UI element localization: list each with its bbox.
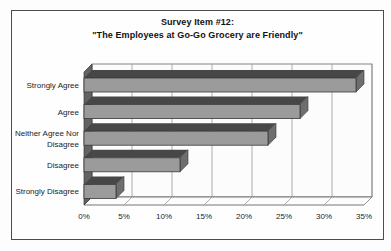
- bar-top-strongly-agree: [84, 70, 364, 78]
- category-label: Disagree: [47, 140, 80, 149]
- x-tick-label-35: 35%: [356, 212, 372, 221]
- x-tick-label-15: 15%: [196, 212, 212, 221]
- bar-top-neither-agree-nor-disagree: [84, 123, 276, 131]
- plot-floor: [84, 197, 372, 205]
- bar-disagree: [84, 158, 180, 172]
- bar-agree: [84, 105, 300, 119]
- x-tick-label-20: 20%: [236, 212, 252, 221]
- bar-top-disagree: [84, 150, 188, 158]
- x-tick-label-25: 25%: [276, 212, 292, 221]
- plot-area: Strongly AgreeAgreeNeither Agree NorDisa…: [0, 0, 391, 251]
- x-tick-label-10: 10%: [156, 212, 172, 221]
- bar-strongly-disagree: [84, 184, 116, 198]
- bar-strongly-agree: [84, 78, 356, 92]
- bar-top-agree: [84, 97, 308, 105]
- bar-neither-agree-nor-disagree: [84, 131, 268, 145]
- category-label: Neither Agree Nor: [15, 129, 79, 138]
- category-label: Disagree: [47, 161, 80, 170]
- x-tick-label-0: 0%: [78, 212, 90, 221]
- x-tick-label-5: 5%: [118, 212, 130, 221]
- category-label: Strongly Disagree: [15, 187, 79, 196]
- category-label: Strongly Agree: [27, 81, 80, 90]
- category-label: Agree: [58, 108, 80, 117]
- x-tick-label-30: 30%: [316, 212, 332, 221]
